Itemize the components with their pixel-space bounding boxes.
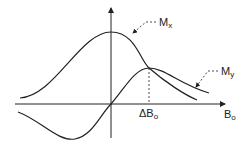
- delta-b0-label: ΔBo: [139, 108, 158, 121]
- mx-label: Mx: [159, 17, 172, 30]
- diagram: [0, 0, 250, 148]
- my-label: My: [221, 66, 234, 79]
- mx-curve: [20, 32, 197, 100]
- b0-axis-label: Bo: [224, 109, 236, 122]
- mx-leader: [133, 22, 156, 33]
- my-leader: [196, 71, 218, 87]
